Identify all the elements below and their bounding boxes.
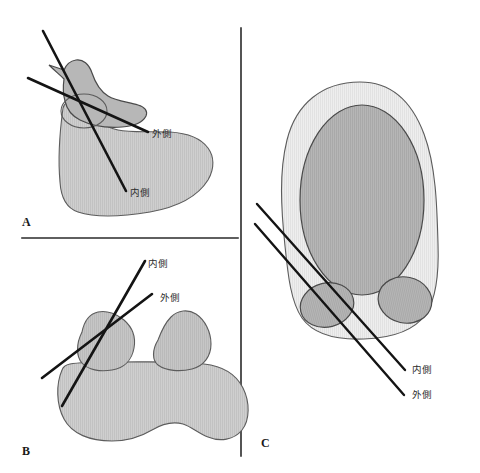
panel-c-medial-label: 内側 (412, 364, 432, 375)
panel-a: 外側 内側 A (22, 31, 213, 229)
figure-canvas: 外側 内側 A 内側 外側 B (0, 0, 480, 473)
panel-a-medial-label: 内側 (130, 187, 150, 198)
panel-b-letter: B (22, 444, 30, 458)
panel-c-inner-canal (300, 105, 424, 295)
panel-b-right-process (154, 311, 212, 371)
panel-a-lateral-label: 外側 (152, 128, 172, 139)
panel-b-medial-label: 内側 (148, 258, 168, 269)
panel-c-lateral-label: 外側 (412, 389, 432, 400)
panel-b: 内側 外側 B (22, 258, 248, 458)
panel-a-letter: A (22, 215, 31, 229)
panel-b-lateral-label: 外側 (160, 292, 180, 303)
anatomical-figure: 外側 内側 A 内側 外側 B (0, 0, 480, 473)
panel-b-body (58, 362, 248, 441)
panel-c-letter: C (261, 436, 270, 450)
panel-c: 内側 外側 C (255, 82, 438, 450)
